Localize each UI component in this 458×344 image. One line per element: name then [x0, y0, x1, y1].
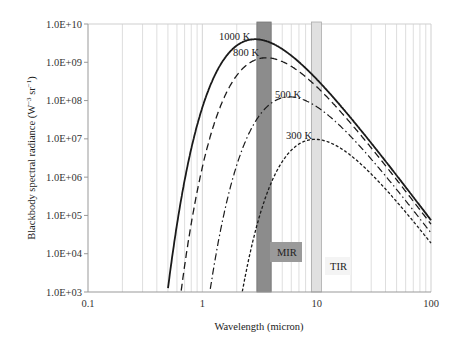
label-800k: 800 K — [233, 47, 259, 58]
tir-label: TIR — [330, 261, 347, 272]
blackbody-radiance-chart: 1.0E+031.0E+041.0E+051.0E+061.0E+071.0E+… — [0, 0, 458, 344]
y-tick-label: 1.0E+08 — [46, 95, 82, 106]
y-axis-label: Blackbody spectral radiance (W−3 sr−1) — [25, 76, 38, 240]
tir-band — [311, 22, 321, 292]
y-tick-label: 1.0E+03 — [46, 287, 82, 298]
y-tick-label: 1.0E+07 — [46, 133, 82, 144]
x-tick-label: 100 — [423, 298, 439, 309]
x-axis-ticks: 0.1110100 — [81, 298, 438, 309]
y-tick-label: 1.0E+05 — [46, 210, 82, 221]
y-tick-label: 1.0E+09 — [46, 57, 82, 68]
x-axis-label: Wavelength (micron) — [214, 321, 304, 333]
mir-label: MIR — [277, 247, 297, 258]
y-tick-label: 1.0E+10 — [46, 19, 82, 30]
y-tick-label: 1.0E+06 — [46, 172, 82, 183]
curve-800k — [181, 58, 431, 291]
x-tick-label: 0.1 — [81, 298, 94, 309]
label-300k: 300 K — [286, 130, 312, 141]
mir-band — [257, 22, 271, 292]
y-tick-label: 1.0E+04 — [46, 248, 83, 259]
y-axis-ticks: 1.0E+031.0E+041.0E+051.0E+061.0E+071.0E+… — [46, 19, 88, 298]
label-1000k: 1000 K — [219, 31, 251, 42]
x-tick-label: 1 — [200, 298, 205, 309]
x-tick-label: 10 — [311, 298, 322, 309]
label-500k: 500 K — [275, 89, 301, 100]
